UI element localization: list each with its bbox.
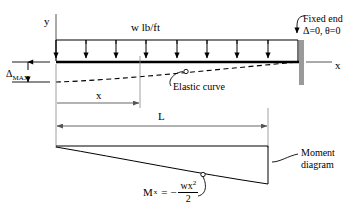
- load-arrows: [56, 40, 268, 58]
- moment-diagram-label: Moment: [301, 148, 335, 159]
- cantilever-beam-figure: y w lb/ft x Fixed end Δ=0, θ=0 Elastic c…: [0, 0, 356, 216]
- fixed-end-conditions-label: Δ=0, θ=0: [303, 26, 341, 37]
- elastic-curve-marker: [184, 69, 188, 73]
- fixed-end-wall: [299, 40, 304, 85]
- formula-numerator-exponent: 2: [193, 179, 197, 187]
- formula-fraction: wx2 2: [178, 180, 198, 204]
- load-box-dividers: [86, 40, 268, 44]
- distributed-load: [56, 40, 298, 61]
- length-dimension-label: L: [158, 111, 165, 123]
- moment-curve-marker: [201, 172, 205, 176]
- x-axis-label: x: [335, 60, 341, 72]
- delta-max-label: ΔMAX: [6, 69, 29, 82]
- delta-max-subscript: MAX: [12, 74, 28, 82]
- formula-denominator: 2: [186, 193, 191, 204]
- fixed-end-label: Fixed end: [303, 14, 343, 25]
- formula-symbol-subscript: x: [154, 188, 158, 196]
- y-axis-label: y: [44, 16, 50, 28]
- formula-numerator-base: wx: [180, 180, 192, 191]
- moment-diagram-label-2: diagram: [301, 160, 334, 171]
- x-dimension-label: x: [96, 90, 102, 102]
- formula-symbol: M: [143, 186, 153, 198]
- moment-formula: Mx = − wx2 2: [143, 180, 198, 204]
- formula-numerator: wx2: [178, 180, 198, 193]
- formula-equals: = −: [161, 186, 176, 198]
- distributed-load-label: w lb/ft: [131, 22, 160, 34]
- x-dimension: [56, 56, 140, 110]
- elastic-curve-label: Elastic curve: [173, 82, 225, 93]
